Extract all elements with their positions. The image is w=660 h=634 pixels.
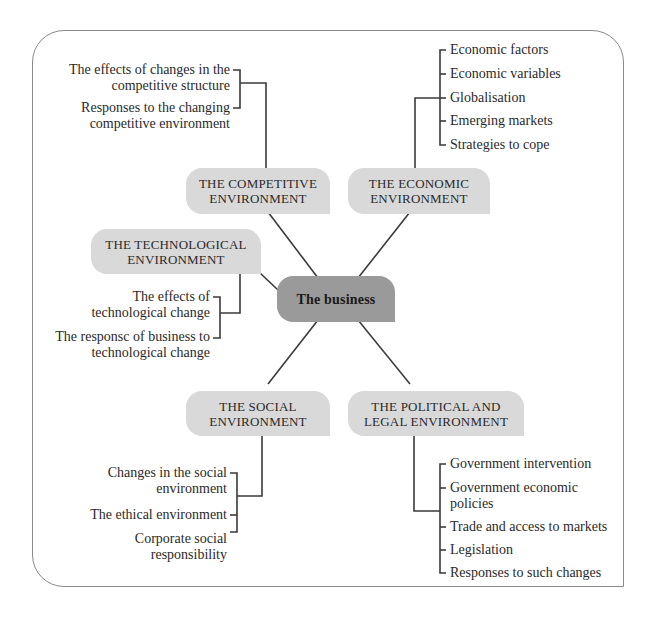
node-technological-environment: THE TECHNOLOGICAL ENVIRONMENT [91, 229, 261, 274]
center-node-the-business: The business [277, 276, 395, 322]
node-label: LEGAL ENVIRONMENT [364, 414, 508, 429]
economic-item-1: Economic factors [450, 42, 548, 58]
social-item-2: The ethical environment [90, 507, 227, 523]
economic-item-4: Emerging markets [450, 113, 553, 129]
node-label: ENVIRONMENT [369, 191, 469, 206]
economic-item-2: Economic variables [450, 66, 561, 82]
political-item-2: Government economicpolicies [450, 480, 578, 512]
node-label: THE TECHNOLOGICAL [105, 237, 246, 252]
technological-item-1: The effects oftechnological change [91, 289, 210, 321]
social-item-1: Changes in the socialenvironment [108, 465, 227, 497]
economic-item-3: Globalisation [450, 90, 525, 106]
node-label: ENVIRONMENT [199, 191, 317, 206]
node-label: THE COMPETITIVE [199, 176, 317, 191]
node-political-legal-environment: THE POLITICAL AND LEGAL ENVIRONMENT [348, 391, 524, 436]
node-label: THE ECONOMIC [369, 176, 469, 191]
node-economic-environment: THE ECONOMIC ENVIRONMENT [348, 168, 490, 214]
technological-item-2: The responsc of business totechnological… [55, 329, 210, 361]
political-item-4: Legislation [450, 542, 513, 558]
political-item-5: Responses to such changes [450, 565, 601, 581]
political-item-1: Government intervention [450, 456, 591, 472]
node-label: THE POLITICAL AND [364, 399, 508, 414]
node-label: THE SOCIAL [209, 399, 307, 414]
node-label: ENVIRONMENT [105, 252, 246, 267]
node-label: ENVIRONMENT [209, 414, 307, 429]
political-item-3: Trade and access to markets [450, 519, 607, 535]
node-competitive-environment: THE COMPETITIVE ENVIRONMENT [186, 168, 330, 214]
competitive-item-1: The effects of changes in thecompetitive… [69, 62, 230, 94]
economic-item-5: Strategies to cope [450, 137, 550, 153]
social-item-3: Corporate socialresponsibility [135, 531, 227, 563]
center-label: The business [296, 292, 375, 307]
competitive-item-2: Responses to the changingcompetitive env… [81, 100, 230, 132]
node-social-environment: THE SOCIAL ENVIRONMENT [186, 391, 330, 436]
